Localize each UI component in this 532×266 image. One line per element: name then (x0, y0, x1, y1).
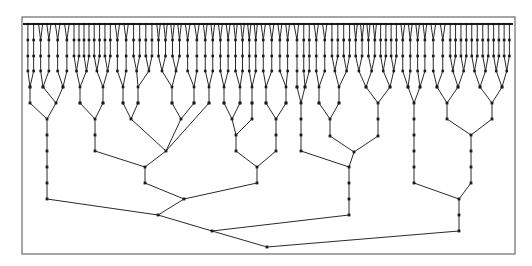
tree-node (37, 23, 39, 25)
tree-node (413, 102, 416, 105)
tree-edge (124, 24, 126, 40)
tree-edge (286, 24, 288, 40)
tree-node (125, 39, 128, 42)
tree-node (184, 23, 186, 25)
tree-node (208, 86, 211, 89)
tree-node (465, 23, 467, 25)
tree-edge (408, 71, 410, 87)
tree-node (163, 23, 165, 25)
tree-node (441, 70, 444, 73)
tree-node (503, 55, 506, 58)
tree-node (78, 55, 81, 58)
tree-edge (256, 24, 258, 40)
tree-node (385, 55, 388, 58)
tree-node (118, 23, 120, 25)
tree-edge (356, 24, 358, 40)
tree-edge (437, 71, 443, 87)
tree-node (144, 182, 147, 185)
tree-node (109, 39, 112, 42)
tree-edge (425, 24, 427, 40)
tree-node (79, 86, 82, 89)
tree-node (138, 39, 141, 42)
tree-edge (47, 103, 56, 119)
tree-edge (319, 103, 330, 119)
tree-edge (480, 71, 486, 87)
tree-node (308, 70, 311, 73)
tree-edge (87, 56, 90, 71)
tree-node (219, 70, 222, 73)
tree-node (375, 23, 377, 25)
tree-node (27, 39, 30, 42)
tree-edge (173, 24, 175, 40)
tree-node (202, 23, 204, 25)
tree-node (204, 70, 207, 73)
tree-node (415, 23, 417, 25)
tree-edge (339, 71, 347, 87)
tree-node (266, 246, 269, 249)
tree-node (503, 23, 505, 25)
tree-node (93, 39, 96, 42)
tree-node (234, 55, 237, 58)
tree-node (48, 39, 51, 42)
tree-edge (381, 56, 384, 71)
tree-node (240, 23, 242, 25)
tree-edge (316, 24, 318, 40)
tree-node (241, 39, 244, 42)
tree-edge (362, 24, 364, 40)
tree-node (260, 23, 262, 25)
tree-node (444, 23, 446, 25)
tree-edge (205, 71, 209, 87)
tree-node (251, 86, 254, 89)
tree-edge (117, 71, 123, 87)
tree-edge (108, 56, 111, 71)
tree-node (481, 39, 484, 42)
tree-edge (137, 56, 140, 71)
tree-node (186, 39, 189, 42)
tree-node (144, 166, 147, 169)
tree-edge (39, 24, 41, 40)
tree-node (68, 23, 70, 25)
tree-edge (172, 71, 176, 87)
tree-node (33, 23, 35, 25)
tree-node (430, 23, 432, 25)
tree-node (137, 86, 140, 89)
tree-node (382, 70, 385, 73)
tree-node (42, 23, 44, 25)
tree-node (286, 70, 289, 73)
tree-node (390, 39, 393, 42)
tree-node (210, 23, 212, 25)
tree-node (256, 23, 258, 25)
tree-node (503, 39, 506, 42)
tree-edge (504, 56, 507, 71)
tree-node (432, 39, 435, 42)
tree-edges (23, 24, 513, 247)
tree-node (208, 102, 211, 105)
tree-edge (288, 24, 290, 40)
tree-edge (228, 24, 230, 40)
tree-node (83, 39, 86, 42)
tree-node (318, 102, 321, 105)
tree-edge (212, 215, 349, 231)
tree-edge (162, 71, 172, 87)
tree-node (342, 55, 345, 58)
tree-edge (28, 71, 30, 87)
tree-node (32, 55, 35, 58)
tree-node (56, 55, 59, 58)
tree-node (171, 55, 174, 58)
tree-node (254, 39, 257, 42)
tree-edge (261, 24, 263, 40)
tree-node (302, 55, 305, 58)
tree-node (369, 23, 371, 25)
tree-edge (226, 24, 228, 40)
tree-node (262, 55, 265, 58)
tree-edge (440, 24, 442, 40)
tree-node (159, 23, 161, 25)
tree-node (109, 23, 111, 25)
tree-edge (166, 24, 168, 40)
tree-edge (47, 24, 49, 40)
tree-edge (401, 24, 403, 40)
tree-node (424, 55, 427, 58)
tree-edge (383, 71, 390, 87)
tree-node (470, 39, 473, 42)
tree-edge (58, 24, 60, 40)
